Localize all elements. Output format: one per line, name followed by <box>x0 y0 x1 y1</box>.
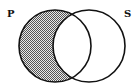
venn-svg <box>0 0 139 84</box>
set-label-s: S <box>124 9 131 19</box>
venn-diagram <box>0 0 139 84</box>
set-label-p: P <box>7 9 15 19</box>
